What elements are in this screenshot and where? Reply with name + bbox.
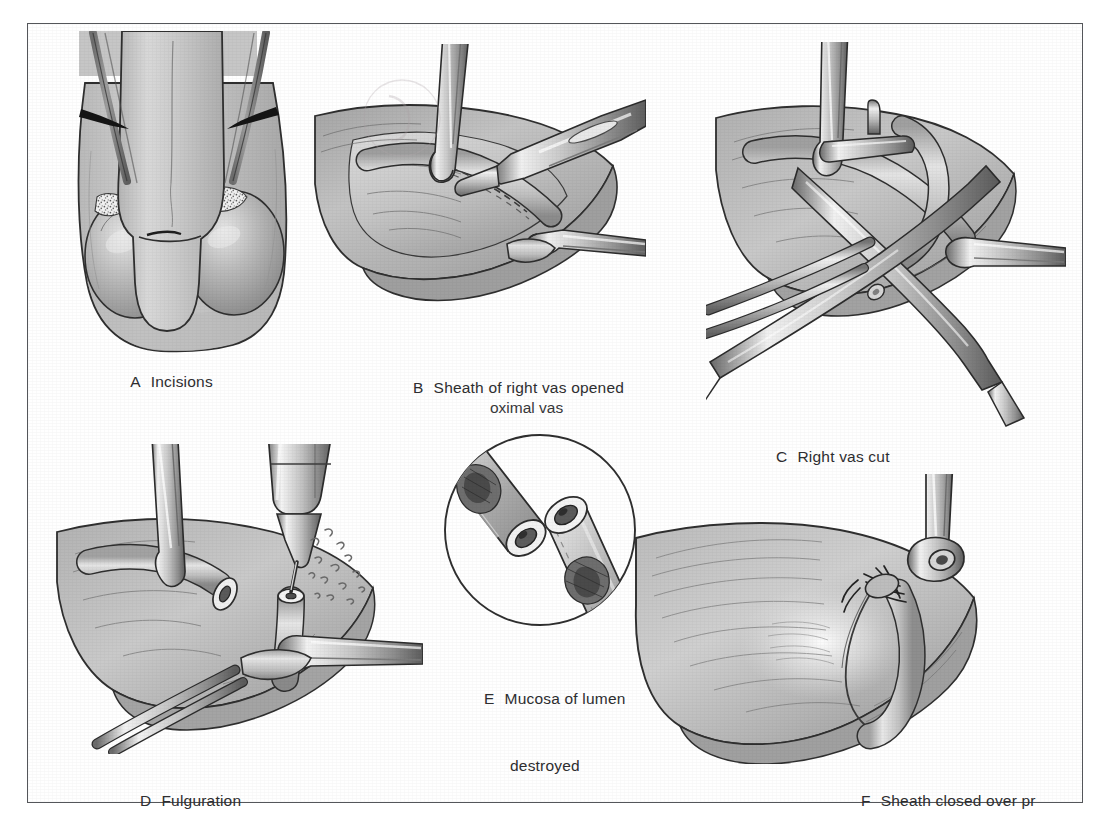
proximal-vas-pointer-label: oximal vas bbox=[490, 399, 563, 417]
panel-f: FSheath closed over pr bbox=[626, 474, 1066, 794]
clamp-right-c bbox=[946, 238, 1066, 268]
panel-b-illustration bbox=[301, 44, 646, 344]
panel-d: DFulguration bbox=[53, 444, 423, 794]
panel-f-caption: FSheath closed over pr bbox=[834, 768, 1036, 835]
panel-d-caption: DFulguration bbox=[113, 768, 241, 835]
clamp-left-d bbox=[151, 444, 185, 586]
panel-c: CRight vas cut bbox=[706, 42, 1066, 462]
panel-e-title-line2: destroyed bbox=[510, 757, 580, 774]
panel-a: AIncisions bbox=[61, 31, 311, 381]
panel-a-illustration bbox=[61, 31, 311, 361]
panel-d-title: Fulguration bbox=[161, 792, 241, 809]
figure-frame: AIncisions bbox=[27, 23, 1083, 803]
panel-a-label: A bbox=[130, 373, 141, 390]
panel-c-title: Right vas cut bbox=[797, 448, 889, 465]
panel-f-title: Sheath closed over pr bbox=[881, 792, 1036, 809]
clamp-f bbox=[908, 474, 964, 581]
panel-b: BSheath of right vas opened bbox=[301, 44, 646, 384]
panel-f-illustration bbox=[626, 474, 1066, 764]
panel-d-label: D bbox=[140, 792, 151, 809]
panel-c-illustration bbox=[706, 42, 1066, 427]
panel-c-label: C bbox=[776, 448, 787, 465]
panel-a-caption: AIncisions bbox=[104, 349, 213, 416]
panel-d-illustration bbox=[53, 444, 423, 754]
panel-f-label: F bbox=[861, 792, 871, 809]
panel-a-title: Incisions bbox=[151, 373, 213, 390]
panel-e-label: E bbox=[484, 690, 495, 707]
panel-e-title-line1: Mucosa of lumen bbox=[505, 690, 626, 707]
panel-b-label: B bbox=[413, 379, 424, 396]
